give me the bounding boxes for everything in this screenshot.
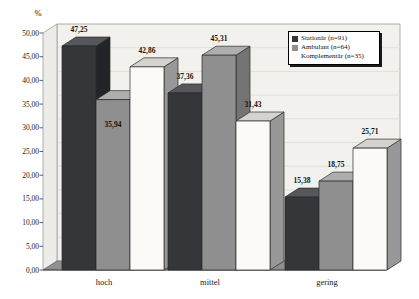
- data-label: 37,36: [163, 72, 207, 81]
- bar-hoch-s3-front: [130, 67, 164, 270]
- legend-swatch-ambulant-icon: [292, 45, 298, 51]
- legend: Stationär (n=91) Ambulant (n=64) Komplem…: [288, 31, 380, 65]
- legend-swatch-komplementaer-icon: [292, 54, 298, 60]
- x-category-label-gering: gering: [297, 277, 357, 287]
- y-tick-label: 0,00: [5, 266, 39, 275]
- bar-mittel-s3-side: [270, 112, 284, 270]
- legend-item-stationaer: Stationär (n=91): [292, 34, 376, 43]
- data-label: 45,31: [197, 34, 241, 43]
- y-tick-label: 30,00: [5, 123, 39, 132]
- legend-item-ambulant: Ambulant (n=64): [292, 43, 376, 52]
- legend-item-label: Stationär (n=91): [301, 34, 347, 43]
- bar-gering-s1-front: [285, 197, 319, 270]
- x-category-label-hoch: hoch: [74, 277, 134, 287]
- data-label: 18,75: [314, 160, 358, 169]
- y-tick-label: 35,00: [5, 100, 39, 109]
- y-tick-label: 10,00: [5, 218, 39, 227]
- data-label: 31,43: [231, 100, 275, 109]
- legend-item-label: Komplementär (n=35): [301, 52, 364, 61]
- data-label: 15,38: [280, 176, 324, 185]
- y-tick-label: 40,00: [5, 76, 39, 85]
- data-label: 35,94: [91, 120, 135, 129]
- bar-gering-s3-front: [353, 148, 387, 270]
- y-tick-label: 15,00: [5, 194, 39, 203]
- bar-gering-s3-side: [387, 139, 401, 270]
- bar-mittel-s3-front: [236, 121, 270, 270]
- data-label: 47,25: [57, 25, 101, 34]
- x-category-label-mittel: mittel: [180, 277, 240, 287]
- legend-item-label: Ambulant (n=64): [301, 43, 350, 52]
- bar-mittel-s2-front: [202, 55, 236, 270]
- data-label: 25,71: [348, 127, 392, 136]
- left-wall: [43, 24, 57, 270]
- y-tick-label: 25,00: [5, 147, 39, 156]
- legend-swatch-stationaer-icon: [292, 36, 298, 42]
- legend-item-komplementaer: Komplementär (n=35): [292, 52, 376, 61]
- data-label: 42,86: [125, 46, 169, 55]
- bar-mittel-s1-front: [168, 93, 202, 270]
- y-tick-label: 20,00: [5, 171, 39, 180]
- bar-hoch-s1-front: [62, 46, 96, 270]
- bar-gering-s2-front: [319, 181, 353, 270]
- y-tick-label: 45,00: [5, 52, 39, 61]
- bar-chart-3d: % Stationär (n=91) Ambulant (n=64) Kompl…: [0, 0, 419, 299]
- y-tick-label: 5,00: [5, 242, 39, 251]
- y-tick-label: 50,00: [5, 29, 39, 38]
- y-axis-unit-label: %: [30, 8, 46, 18]
